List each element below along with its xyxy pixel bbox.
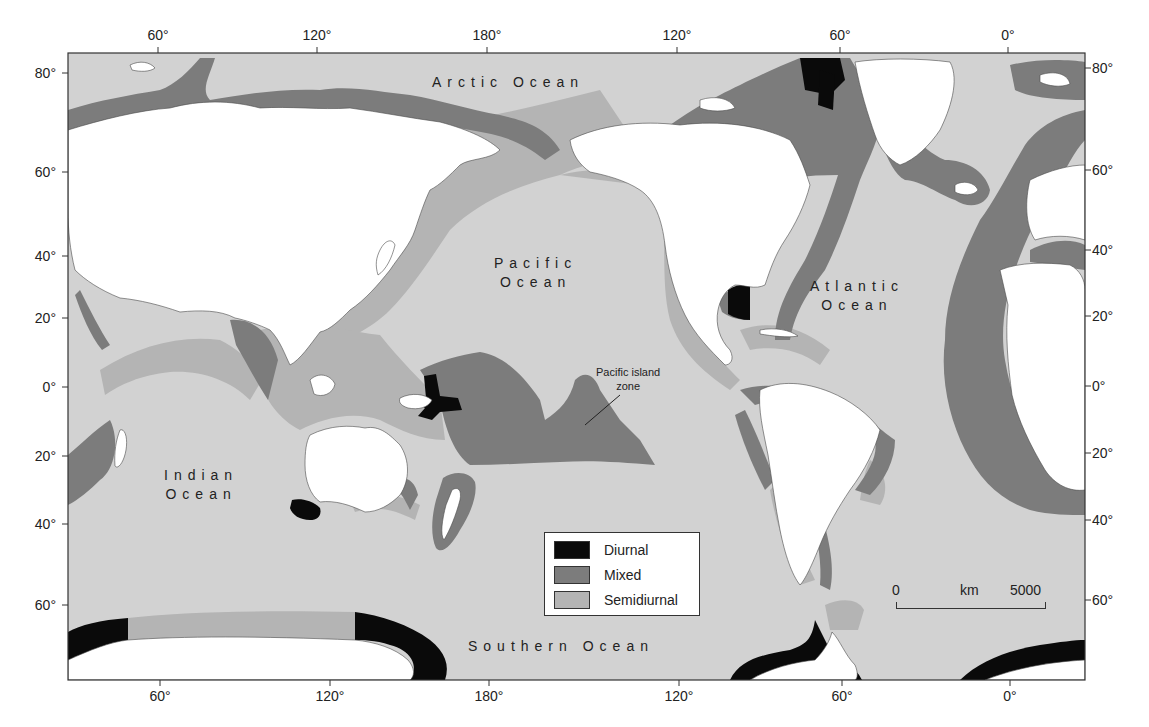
- legend-item-semidiurnal: Semidiurnal: [554, 591, 678, 608]
- lon-label: 60°: [147, 27, 168, 43]
- legend-label: Diurnal: [604, 542, 648, 558]
- legend-label: Semidiurnal: [604, 592, 678, 608]
- lon-label: 120°: [665, 688, 694, 704]
- lat-label: 0°: [0, 379, 56, 395]
- label-indian-ocean: Indian Ocean: [164, 466, 238, 504]
- label-southern-ocean: Southern Ocean: [468, 637, 654, 656]
- lat-label: 20°: [0, 448, 56, 464]
- lat-label: 60°: [0, 597, 56, 613]
- lon-label: 60°: [829, 27, 850, 43]
- scale-start: 0: [892, 582, 900, 598]
- lat-label: 40°: [1092, 242, 1113, 258]
- lon-label: 60°: [149, 688, 170, 704]
- legend-swatch-semidiurnal: [554, 591, 590, 609]
- lon-label: 180°: [473, 27, 502, 43]
- label-indian-line2: Ocean: [164, 485, 238, 504]
- label-atlantic-ocean: Atlantic Ocean: [810, 277, 904, 315]
- lon-label: 120°: [663, 27, 692, 43]
- world-tide-map: [0, 0, 1149, 727]
- lat-label: 20°: [1092, 308, 1113, 324]
- legend-swatch-mixed: [554, 566, 590, 584]
- annotation-line1: Pacific island: [596, 365, 660, 379]
- legend-swatch-diurnal: [554, 541, 590, 559]
- label-pacific-line2: Ocean: [494, 273, 577, 292]
- scale-end: 5000: [1010, 582, 1041, 598]
- lat-label: 60°: [0, 164, 56, 180]
- lat-label: 60°: [1092, 162, 1113, 178]
- lat-label: 0°: [1092, 378, 1105, 394]
- lon-label: 180°: [475, 688, 504, 704]
- label-pacific-ocean: Pacific Ocean: [494, 254, 577, 292]
- label-pacific-line1: Pacific: [494, 254, 577, 273]
- annotation-pacific-island-zone: Pacific island zone: [596, 365, 660, 393]
- scale-bar: 0 km 5000: [890, 582, 1050, 612]
- land-australia: [305, 426, 408, 512]
- land-antarctica: [68, 637, 414, 680]
- annotation-line2: zone: [596, 379, 660, 393]
- lon-label: 60°: [831, 688, 852, 704]
- lat-label: 20°: [1092, 445, 1113, 461]
- lat-label: 80°: [1092, 60, 1113, 76]
- label-arctic-ocean: Arctic Ocean: [432, 73, 584, 92]
- scale-bar-line: [896, 602, 1046, 609]
- label-indian-line1: Indian: [164, 466, 238, 485]
- legend-item-mixed: Mixed: [554, 566, 641, 583]
- lon-label: 0°: [1003, 688, 1016, 704]
- legend-item-diurnal: Diurnal: [554, 541, 648, 558]
- lat-label: 40°: [0, 516, 56, 532]
- lat-label: 80°: [0, 65, 56, 81]
- legend: Diurnal Mixed Semidiurnal: [544, 532, 700, 616]
- scale-unit: km: [960, 582, 979, 598]
- lon-label: 120°: [303, 27, 332, 43]
- lon-label: 120°: [316, 688, 345, 704]
- lon-label: 0°: [1001, 27, 1014, 43]
- lat-label: 60°: [1092, 592, 1113, 608]
- label-atlantic-line2: Ocean: [810, 296, 904, 315]
- lat-label: 40°: [1092, 512, 1113, 528]
- label-atlantic-line1: Atlantic: [810, 277, 904, 296]
- lat-label: 40°: [0, 248, 56, 264]
- lat-label: 20°: [0, 310, 56, 326]
- legend-label: Mixed: [604, 567, 641, 583]
